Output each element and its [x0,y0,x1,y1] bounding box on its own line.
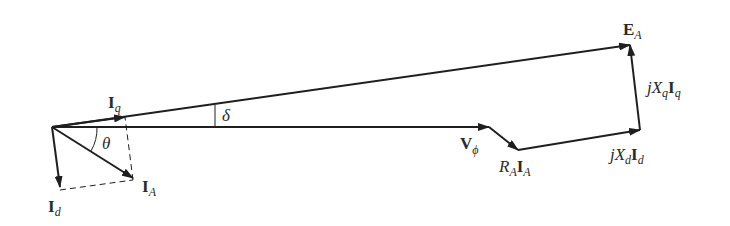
phasor-diagram: Iq Id IA θ δ Vϕ RAIA jXdId jXqIq EA [0,0,730,226]
label-ia: IA [142,177,157,199]
label-iq: Iq [108,93,121,115]
vector-id [52,127,60,187]
label-jxd-id: jXdId [608,145,645,167]
label-delta: δ [222,106,231,125]
label-ea: EA [623,20,642,42]
vector-ia [52,127,133,178]
label-theta: θ [102,134,110,153]
vector-jxq-iq [630,45,640,130]
label-id: Id [48,197,62,219]
theta-arc [91,127,97,151]
label-v-phi: Vϕ [460,134,479,157]
label-jxq-iq: jXqIq [645,78,681,100]
vector-iq [52,117,125,127]
vector-ea [52,45,630,127]
label-ra-ia: RAIA [498,157,531,179]
dashed-id-to-ia [60,180,133,190]
vector-ra-ia [489,127,518,150]
